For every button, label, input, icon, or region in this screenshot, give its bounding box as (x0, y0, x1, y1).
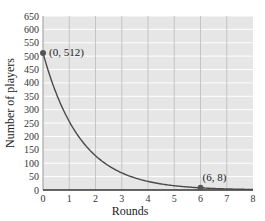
x-tick-label: 7 (224, 193, 229, 204)
data-point-label: (0, 512) (49, 46, 84, 59)
y-tick-label: 50 (29, 171, 39, 182)
x-axis-ticks: 012345678 (41, 193, 256, 204)
y-tick-label: 0 (34, 185, 39, 196)
y-axis-label: Number of players (3, 58, 17, 148)
x-tick-label: 0 (41, 193, 46, 204)
y-tick-label: 250 (24, 118, 39, 129)
y-tick-label: 350 (24, 91, 39, 102)
x-tick-label: 1 (67, 193, 72, 204)
y-axis-ticks: 050100150200250300350400450500550600650 (24, 11, 39, 196)
y-tick-label: 400 (24, 77, 39, 88)
x-axis-label: Rounds (112, 204, 149, 218)
y-tick-label: 650 (24, 11, 39, 22)
y-tick-label: 500 (24, 51, 39, 62)
exponential-decay-chart: 050100150200250300350400450500550600650 … (0, 0, 265, 221)
x-tick-label: 5 (172, 193, 177, 204)
y-tick-label: 150 (24, 144, 39, 155)
x-tick-label: 6 (198, 193, 203, 204)
x-tick-label: 4 (146, 193, 151, 204)
data-point-marker (198, 185, 204, 191)
y-tick-label: 450 (24, 64, 39, 75)
x-tick-label: 2 (93, 193, 98, 204)
x-tick-label: 8 (251, 193, 256, 204)
y-tick-label: 550 (24, 37, 39, 48)
y-tick-label: 200 (24, 131, 39, 142)
y-tick-label: 300 (24, 104, 39, 115)
data-point-marker (40, 50, 46, 56)
y-tick-label: 100 (24, 158, 39, 169)
x-tick-label: 3 (119, 193, 124, 204)
data-point-label: (6, 8) (203, 171, 227, 184)
y-tick-label: 600 (24, 24, 39, 35)
